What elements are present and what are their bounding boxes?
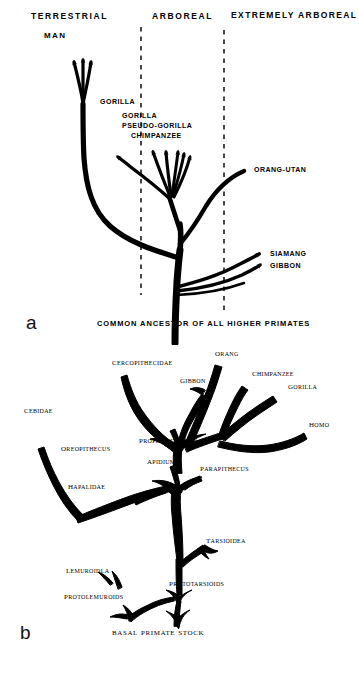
tip-label-hapalidae: Hapalidae [68, 481, 105, 491]
tip-label-parapithecus: Parapithecus [200, 463, 249, 473]
zone-header-extremely-arboreal-text: EXTREMELY ARBOREAL [231, 10, 319, 21]
tip-label-prototarsioids: Prototarsioids [169, 578, 224, 588]
figure-a-caption: COMMON ANCESTOR OF ALL HIGHER PRIMATES [97, 320, 310, 328]
tip-label-siamang: SIAMANG [270, 250, 307, 257]
zone-header-arboreal: ARBOREAL [152, 12, 213, 21]
figure-b-caption: Basal Primate Stock [112, 627, 204, 637]
tip-label-cercopithecidae: Cercopithecidae [112, 357, 173, 367]
tip-label-gibbon-b: Gibbon [180, 375, 206, 385]
zone-header-extremely-arboreal: EXTREMELY ARBOREAL [231, 10, 341, 21]
branch-trunk-a [175, 250, 180, 343]
tip-label-orang-utan: ORANG-UTAN [254, 166, 306, 173]
tip-label-tarsioidea: Tarsioidea [206, 535, 246, 545]
tip-label-gorilla-inner: GORILLA [122, 112, 157, 119]
zone-divider-lines [141, 27, 224, 312]
figure-a-higher-primate-tree: TERRESTRIAL ARBOREAL EXTREMELY ARBOREAL … [0, 0, 359, 345]
tip-label-propliopithecus: Propliopithecus [139, 435, 198, 445]
tip-label-man: MAN [44, 32, 66, 40]
branch-tarsioidea-tip-2 [204, 545, 218, 553]
tip-label-protolemuroids: Protolemuroids [64, 591, 123, 601]
figure-b-primate-phylogeny: Cercopithecidae Orang Gibbon Chimpanzee … [0, 345, 359, 673]
branch-protolemuroids-tip-2 [110, 614, 128, 619]
tip-label-chimpanzee-b: Chimpanzee [252, 368, 294, 378]
branch-lemuroidla-1 [112, 571, 122, 589]
branch-gibbon-b-tip [190, 388, 205, 395]
zone-header-terrestrial: TERRESTRIAL [31, 12, 108, 21]
branch-orang-utan [180, 171, 244, 244]
tip-label-orang: Orang [215, 348, 239, 358]
branch-parapithecus [182, 476, 202, 490]
figure-b-tree-drawing [0, 345, 359, 673]
tip-label-chimpanzee: CHIMPANZEE [131, 132, 182, 139]
branch-main-trunk-b [171, 490, 183, 561]
tip-label-gorilla-b: Gorilla [288, 381, 317, 391]
tip-label-apidium: Apidium [147, 456, 176, 466]
tip-label-cebidae: Cebidae [24, 405, 53, 415]
branch-protolemuroids [128, 597, 174, 622]
branch-african-ape-stem [169, 196, 180, 230]
panel-letter-b: b [20, 623, 31, 642]
tip-label-lemuroidla: Lemuroidla [66, 565, 109, 575]
tip-label-gorilla-left: GORILLA [100, 98, 135, 105]
panel-letter-a: a [26, 313, 37, 332]
tip-label-gibbon: GIBBON [270, 262, 301, 269]
tip-label-homo: Homo [309, 419, 329, 429]
tip-label-oreopithecus: Oreopithecus [61, 443, 110, 453]
branch-gibbon [177, 265, 260, 291]
tip-label-pseudo-gorilla: PSEUDO-GORILLA [122, 122, 192, 129]
